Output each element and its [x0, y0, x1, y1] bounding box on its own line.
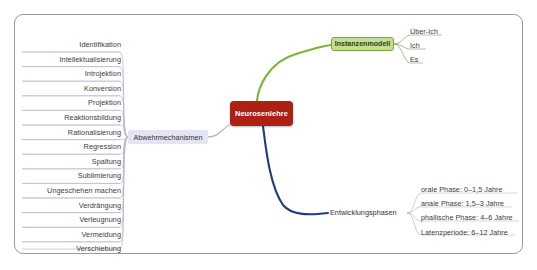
node-label: Neurosenlehre — [235, 109, 288, 118]
list-item[interactable]: orale Phase: 0–1,5 Jahre — [421, 184, 513, 198]
list-item[interactable]: Projektion — [18, 96, 121, 111]
node-entwicklungsphasen[interactable]: Entwicklungsphasen — [330, 208, 397, 218]
list-item[interactable]: Latenzperiode: 6–12 Jahre — [421, 227, 513, 241]
list-item[interactable]: Ungeschehen machen — [18, 184, 121, 199]
list-item[interactable]: Regression — [18, 140, 121, 155]
list-item[interactable]: Reaktionsbildung — [18, 111, 121, 126]
mindmap-canvas: Identifikation Intellektualisierung Intr… — [0, 0, 537, 270]
node-label: Abwehrmechanismen — [133, 133, 202, 142]
list-item[interactable]: Identifikation — [18, 38, 121, 53]
list-item[interactable]: Introjektion — [18, 67, 121, 82]
list-item[interactable]: Es — [410, 54, 438, 68]
abwehrmechanismen-children-list: Identifikation Intellektualisierung Intr… — [18, 38, 121, 257]
entwicklungsphasen-children-list: orale Phase: 0–1,5 Jahre anale Phase: 1,… — [421, 184, 513, 241]
list-item[interactable]: Spaltung — [18, 155, 121, 170]
list-item[interactable]: Verdrängung — [18, 199, 121, 214]
list-item[interactable]: phallische Phase: 4–6 Jahre — [421, 212, 513, 226]
list-item[interactable]: Intellektualisierung — [18, 53, 121, 68]
list-item[interactable]: Verleugnung — [18, 213, 121, 228]
node-neurosenlehre-center[interactable]: Neurosenlehre — [230, 101, 293, 126]
node-abwehrmechanismen[interactable]: Abwehrmechanismen — [128, 130, 208, 144]
list-item[interactable]: Über-Ich — [410, 26, 438, 40]
list-item[interactable]: Konversion — [18, 82, 121, 97]
list-item[interactable]: Ich — [410, 40, 438, 54]
list-item[interactable]: anale Phase: 1,5–3 Jahre — [421, 198, 513, 212]
list-item[interactable]: Vermeidung — [18, 228, 121, 243]
node-label: Instanzenmodell — [335, 40, 391, 48]
list-item[interactable]: Rationalisierung — [18, 126, 121, 141]
node-instanzenmodell[interactable]: Instanzenmodell — [331, 37, 394, 51]
list-item[interactable]: Verschiebung — [18, 242, 121, 257]
instanzenmodell-children-list: Über-Ich Ich Es — [410, 26, 438, 68]
list-item[interactable]: Sublimierung — [18, 169, 121, 184]
